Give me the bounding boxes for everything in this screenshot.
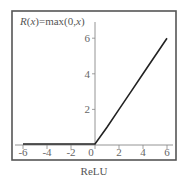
y-tick-label: 4 (85, 68, 91, 80)
y-tick-label: 2 (85, 103, 91, 115)
x-tick-label: -4 (42, 146, 52, 158)
x-tick-label: 2 (116, 146, 122, 158)
x-tick-label: -2 (66, 146, 75, 158)
chart-frame (12, 11, 176, 160)
x-tick-label: 4 (140, 146, 146, 158)
relu-chart: R(x)=max(0,x) -6-4-20246 246 ReLU (0, 0, 190, 185)
x-tick-label: 0 (88, 146, 94, 158)
x-tick-label: 6 (164, 146, 170, 158)
x-tick-label: -6 (18, 146, 28, 158)
chart-title: R(x)=max(0,x) (19, 15, 85, 28)
chart-caption: ReLU (81, 165, 108, 177)
y-tick-label: 6 (85, 32, 91, 44)
